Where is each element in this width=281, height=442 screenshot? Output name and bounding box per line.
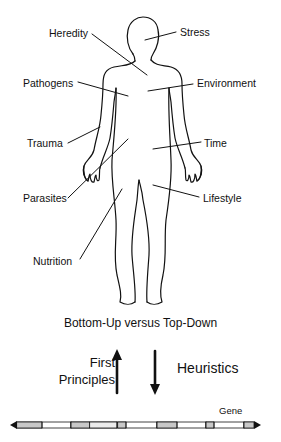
label-pathogens: Pathogens: [23, 77, 73, 89]
first-principles-line2: Principles: [59, 371, 115, 388]
arrow-down-icon: [150, 351, 160, 395]
label-parasites: Parasites: [23, 192, 67, 204]
heuristics-label: Heuristics: [177, 360, 238, 376]
label-trauma: Trauma: [27, 137, 63, 149]
label-stress: Stress: [180, 26, 210, 38]
gene-bar: [10, 421, 261, 429]
first-principles-label: First Principles: [59, 354, 115, 388]
label-environment: Environment: [197, 77, 256, 89]
label-time: Time: [204, 137, 227, 149]
diagram-figure: Heredity Stress Pathogens Environment Tr…: [0, 0, 281, 442]
first-principles-line1: First: [59, 354, 115, 371]
label-lifestyle: Lifestyle: [203, 192, 242, 204]
label-nutrition: Nutrition: [33, 255, 72, 267]
human-body-outline: [0, 0, 281, 442]
label-heredity: Heredity: [49, 27, 88, 39]
gene-label: Gene: [219, 405, 242, 416]
approach-title: Bottom-Up versus Top-Down: [0, 316, 281, 330]
